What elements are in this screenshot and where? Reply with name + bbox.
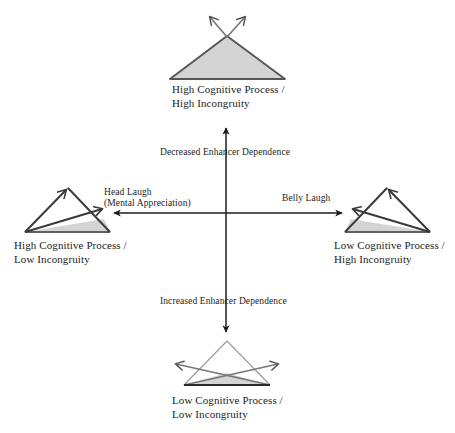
caption-right-line2: High Incongruity bbox=[334, 253, 445, 267]
caption-right: Low Cognitive Process / High Incongruity bbox=[334, 239, 445, 266]
axis-label-belly-laugh: Belly Laugh bbox=[282, 192, 330, 204]
axis-label-mental-appreciation: (Mental Appreciation) bbox=[104, 197, 191, 209]
caption-top-line2: High Incongruity bbox=[172, 97, 285, 111]
concept-diagram bbox=[0, 0, 455, 433]
triangle-left-icon bbox=[25, 188, 110, 232]
caption-bottom-line1: Low Cognitive Process / bbox=[172, 394, 283, 408]
caption-left-line1: High Cognitive Process / bbox=[14, 239, 127, 253]
caption-top: High Cognitive Process / High Incongruit… bbox=[172, 83, 285, 110]
triangle-bottom-icon bbox=[176, 341, 278, 385]
caption-bottom: Low Cognitive Process / Low Incongruity bbox=[172, 394, 283, 421]
caption-left-line2: Low Incongruity bbox=[14, 253, 127, 267]
caption-left: High Cognitive Process / Low Incongruity bbox=[14, 239, 127, 266]
triangle-right-icon bbox=[345, 188, 430, 232]
axis-label-increased-enhancer-dependence: Increased Enhancer Dependence bbox=[160, 295, 287, 307]
axis-label-decreased-enhancer-dependence: Decreased Enhancer Dependence bbox=[160, 146, 290, 158]
caption-right-line1: Low Cognitive Process / bbox=[334, 239, 445, 253]
caption-bottom-line2: Low Incongruity bbox=[172, 408, 283, 422]
caption-top-line1: High Cognitive Process / bbox=[172, 83, 285, 97]
triangle-top-icon bbox=[170, 17, 285, 79]
